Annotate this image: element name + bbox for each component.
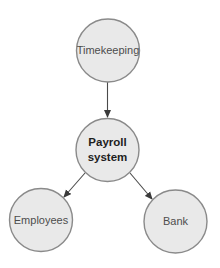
node-payroll-system: Payroll system — [76, 119, 139, 182]
node-employees: Employees — [10, 189, 73, 252]
node-bank: Bank — [144, 190, 207, 253]
employees-label: Employees — [14, 214, 69, 226]
edge-payroll-to-employees — [64, 173, 85, 197]
edge-payroll-to-bank — [130, 173, 152, 199]
payroll-diagram: Timekeeping Payroll system Employees Ban… — [0, 0, 220, 268]
timekeeping-label: Timekeeping — [77, 44, 140, 56]
bank-label: Bank — [163, 215, 189, 227]
payroll-label-line1: Payroll — [88, 136, 126, 148]
payroll-label-line2: system — [88, 151, 128, 163]
payroll-system-circle — [76, 119, 139, 182]
node-timekeeping: Timekeeping — [77, 19, 140, 82]
